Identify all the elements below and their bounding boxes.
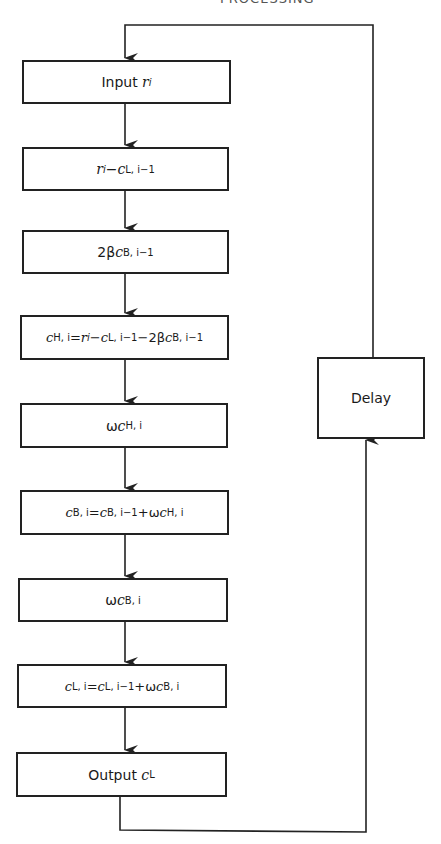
equals-sign: = — [89, 505, 100, 520]
sub-L-i: L, i — [72, 681, 87, 692]
var-c: c — [65, 679, 72, 694]
sub-L-im1: L, i−1 — [105, 681, 134, 692]
lowpass-eq-box: cL, i = cL, i−1 + ωcB, i — [17, 664, 227, 708]
omega: ω — [106, 418, 118, 434]
sub-B-i: B, i — [73, 507, 89, 518]
output-label: Output — [88, 767, 137, 783]
equals-sign: = — [87, 679, 98, 694]
plus-sign: + — [138, 505, 149, 520]
bandpass-eq-box: cB, i = cB, i−1 + ωcH, i — [20, 490, 229, 535]
omega: ω — [145, 679, 156, 694]
var-c: c — [118, 418, 126, 434]
var-c: c — [101, 330, 108, 345]
sub-H-i: H, i — [167, 507, 184, 518]
omega: ω — [149, 505, 160, 520]
var-c: c — [98, 679, 105, 694]
sub-B-im1: B, i−1 — [123, 247, 154, 258]
var-c: c — [156, 679, 163, 694]
minus-sign: − — [106, 161, 118, 177]
sub-B-i: B, i — [163, 681, 179, 692]
equals-sign: = — [70, 330, 81, 345]
delay-label: Delay — [351, 390, 391, 406]
sub-L: L — [149, 769, 155, 780]
var-c: c — [115, 244, 123, 260]
var-c: c — [160, 505, 167, 520]
minus-sign: − — [137, 330, 148, 345]
var-r: r — [142, 74, 149, 90]
input-label: Input — [101, 74, 137, 90]
highpass-eq-box: cH, i = ri − cL, i−1 − 2βcB, i−1 — [20, 315, 229, 360]
sub-B-im1: B, i−1 — [172, 332, 203, 343]
residual-box: ri − cL, i−1 — [22, 147, 229, 191]
sub-H-i: H, i — [53, 332, 70, 343]
sub-i: i — [149, 77, 152, 88]
sub-L-im1: L, i−1 — [108, 332, 137, 343]
output-box: Output cL — [16, 752, 227, 797]
var-c: c — [100, 505, 107, 520]
var-r: r — [96, 161, 103, 177]
var-c: c — [165, 330, 172, 345]
beta-term-box: 2βcB, i−1 — [22, 230, 229, 274]
omega-cb-box: ωcB, i — [18, 578, 228, 622]
sub-B-i: B, i — [125, 595, 141, 606]
var-c: c — [117, 161, 125, 177]
sub-B-im1: B, i−1 — [107, 507, 138, 518]
delay-box: Delay — [317, 357, 425, 439]
var-c: c — [117, 592, 125, 608]
var-c: c — [141, 767, 149, 783]
input-box: Input ri — [22, 60, 231, 104]
two-beta: 2β — [97, 244, 115, 260]
sub-H-i: H, i — [125, 420, 142, 431]
var-c: c — [46, 330, 53, 345]
minus-sign: − — [90, 330, 101, 345]
two-beta: 2β — [148, 330, 165, 345]
omega: ω — [105, 592, 117, 608]
omega-ch-box: ωcH, i — [20, 403, 228, 448]
var-c: c — [66, 505, 73, 520]
plus-sign: + — [134, 679, 145, 694]
sub-L-im1: L, i−1 — [125, 164, 154, 175]
